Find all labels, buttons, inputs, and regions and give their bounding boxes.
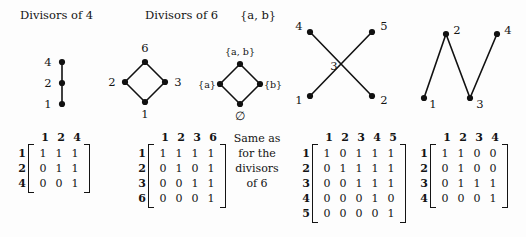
matrix-cell: 0 bbox=[469, 191, 485, 206]
matrix-cell: 1 bbox=[67, 146, 83, 161]
matrix-cell: 0 bbox=[437, 176, 453, 191]
matrix-cell: 1 bbox=[335, 161, 351, 176]
matrix-cell: 1 bbox=[155, 146, 171, 161]
matrix-divisors-of-4: 1 2 4 1 2 4 1 1 1 0 1 1 bbox=[12, 131, 90, 193]
col-header: 2 bbox=[337, 131, 353, 144]
edge-3-4 bbox=[470, 34, 497, 98]
row-header: 3 bbox=[132, 176, 146, 191]
matrix-cell: 0 bbox=[351, 206, 367, 221]
matrix-row: 0 1 0 0 bbox=[437, 161, 501, 176]
matrix-row: 0 1 1 1 1 bbox=[319, 161, 399, 176]
matrix-row: 1 0 1 1 1 bbox=[319, 146, 399, 161]
row-header: 6 bbox=[132, 191, 146, 206]
matrix-cell: 1 bbox=[453, 161, 469, 176]
row-header: 3 bbox=[414, 176, 428, 191]
col-header: 4 bbox=[369, 131, 385, 144]
matrix-cell: 0 bbox=[453, 191, 469, 206]
matrix-cell: 0 bbox=[485, 146, 501, 161]
note-line: for the bbox=[226, 146, 288, 161]
col-header: 3 bbox=[189, 131, 205, 144]
matrix-cell: 0 bbox=[469, 161, 485, 176]
matrix-row: 0 0 1 1 1 bbox=[319, 176, 399, 191]
matrix-row: 0 1 1 1 bbox=[437, 176, 501, 191]
matrix-cell: 0 bbox=[187, 191, 203, 206]
matrix-cell: 0 bbox=[35, 161, 51, 176]
matrix-cell: 1 bbox=[35, 146, 51, 161]
matrix-cell: 0 bbox=[319, 176, 335, 191]
matrix-row: 0 1 1 bbox=[35, 161, 83, 176]
matrix-cell: 1 bbox=[367, 146, 383, 161]
matrix-cell: 1 bbox=[383, 161, 399, 176]
edge-1-2 bbox=[424, 34, 446, 98]
matrix-cell: 1 bbox=[469, 176, 485, 191]
matrix-cell: 0 bbox=[437, 191, 453, 206]
matrix-row-headers: 1 2 3 6 bbox=[132, 144, 146, 208]
matrix-cell: 0 bbox=[351, 191, 367, 206]
row-header: 1 bbox=[414, 146, 428, 161]
row-header: 1 bbox=[296, 146, 310, 161]
col-header: 4 bbox=[69, 131, 85, 144]
col-header: 1 bbox=[37, 131, 53, 144]
row-header: 2 bbox=[414, 161, 428, 176]
matrix-cell: 0 bbox=[155, 191, 171, 206]
col-header: 1 bbox=[321, 131, 337, 144]
matrix-zigzag-graph: 1 2 3 4 1 2 3 4 1 1 0 0 0 bbox=[414, 131, 508, 208]
matrix-row: 0 0 1 1 bbox=[155, 176, 219, 191]
note-line: Same as bbox=[226, 131, 288, 146]
node-label-1: 1 bbox=[429, 97, 436, 111]
matrix-cell: 1 bbox=[351, 161, 367, 176]
node-4 bbox=[494, 31, 500, 37]
matrix-cell: 1 bbox=[351, 176, 367, 191]
matrix-cell: 0 bbox=[171, 176, 187, 191]
col-header: 1 bbox=[439, 131, 455, 144]
matrix-cell: 1 bbox=[67, 176, 83, 191]
matrix-grid: 1 1 0 0 0 1 0 0 0 1 1 1 0 bbox=[436, 144, 502, 208]
figure-canvas: Divisors of 4 Divisors of 6 {a, b} 4 2 1… bbox=[0, 0, 526, 237]
matrix-row: 1 1 1 1 bbox=[155, 146, 219, 161]
node-label-4: 4 bbox=[504, 23, 511, 37]
matrix-row: 0 1 0 1 bbox=[155, 161, 219, 176]
col-header: 2 bbox=[53, 131, 69, 144]
col-header: 6 bbox=[205, 131, 221, 144]
matrix-row: 1 1 0 0 bbox=[437, 146, 501, 161]
node-2 bbox=[443, 31, 449, 37]
row-header: 5 bbox=[296, 206, 310, 221]
matrix-cell: 1 bbox=[485, 176, 501, 191]
row-header: 1 bbox=[132, 146, 146, 161]
matrix-cell: 1 bbox=[453, 176, 469, 191]
row-header: 4 bbox=[296, 191, 310, 206]
matrix-row-headers: 1 2 4 bbox=[12, 144, 26, 193]
matrix-cell: 0 bbox=[319, 191, 335, 206]
matrix-cell: 1 bbox=[383, 146, 399, 161]
matrix-cell: 0 bbox=[485, 161, 501, 176]
matrix-cell: 0 bbox=[187, 161, 203, 176]
matrix-cell: 1 bbox=[67, 161, 83, 176]
matrix-cell: 1 bbox=[203, 146, 219, 161]
row-header: 2 bbox=[132, 161, 146, 176]
node-label-3: 3 bbox=[476, 97, 483, 111]
matrix-cell: 1 bbox=[383, 206, 399, 221]
matrix-cell: 0 bbox=[383, 191, 399, 206]
matrix-crossing-graph: 1 2 3 4 5 1 2 3 4 5 1 0 1 1 1 bbox=[296, 131, 406, 223]
matrix-cell: 1 bbox=[351, 146, 367, 161]
bracket-right bbox=[502, 144, 508, 208]
col-header: 2 bbox=[173, 131, 189, 144]
matrix-cell: 1 bbox=[367, 176, 383, 191]
matrix-cell: 0 bbox=[155, 176, 171, 191]
row-header: 2 bbox=[296, 161, 310, 176]
col-header: 1 bbox=[157, 131, 173, 144]
matrix-cell: 0 bbox=[35, 176, 51, 191]
row-header: 1 bbox=[12, 146, 26, 161]
matrix-cell: 0 bbox=[319, 206, 335, 221]
matrix-divisors-of-6: 1 2 3 6 1 2 3 6 1 1 1 1 0 bbox=[132, 131, 226, 208]
matrix-column-headers: 1 2 4 bbox=[30, 131, 90, 144]
zigzag-graph: 1 2 3 4 bbox=[0, 0, 526, 125]
matrix-cell: 1 bbox=[51, 161, 67, 176]
matrix-grid: 1 0 1 1 1 0 1 1 1 1 0 0 1 1 bbox=[318, 144, 400, 223]
same-as-divisors-of-6-note: Same as for the divisors of 6 bbox=[226, 131, 288, 191]
bracket-right bbox=[400, 144, 406, 223]
row-header: 4 bbox=[12, 176, 26, 191]
matrix-cell: 1 bbox=[171, 146, 187, 161]
node-3 bbox=[467, 95, 473, 101]
matrix-column-headers: 1 2 3 6 bbox=[150, 131, 226, 144]
